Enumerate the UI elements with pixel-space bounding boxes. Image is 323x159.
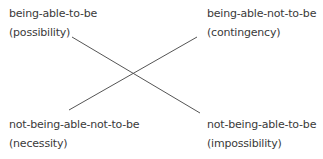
line-possibility-to-impossibility [72, 37, 200, 113]
line-necessity-to-contingency [69, 37, 197, 110]
gloss-label: (possibility) [9, 23, 97, 42]
term-label: being-able-to-be [9, 4, 97, 23]
term-label: being-able-not-to-be [207, 4, 316, 23]
term-label: not-being-able-to-be [207, 115, 316, 134]
gloss-label: (contingency) [207, 23, 316, 42]
corner-contingency: being-able-not-to-be (contingency) [207, 4, 316, 42]
corner-impossibility: not-being-able-to-be (impossibility) [207, 115, 316, 153]
corner-possibility: being-able-to-be (possibility) [9, 4, 97, 42]
gloss-label: (impossibility) [207, 134, 316, 153]
term-label: not-being-able-not-to-be [9, 115, 139, 134]
corner-necessity: not-being-able-not-to-be (necessity) [9, 115, 139, 153]
gloss-label: (necessity) [9, 134, 139, 153]
